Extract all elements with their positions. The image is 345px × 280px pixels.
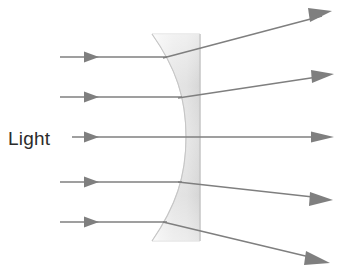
outgoing-ray-5 xyxy=(163,222,330,265)
optics-diagram: Light xyxy=(0,0,345,280)
outgoing-ray-2 xyxy=(178,70,334,98)
incoming-ray-5 xyxy=(60,217,167,228)
light-label: Light xyxy=(8,128,51,149)
incoming-ray-3 xyxy=(72,132,200,143)
outgoing-ray-3 xyxy=(200,132,334,143)
incoming-ray-2 xyxy=(60,92,182,103)
outgoing-ray-4 xyxy=(178,182,333,206)
incoming-ray-1 xyxy=(60,52,167,63)
incoming-ray-4 xyxy=(60,177,182,188)
ray-diagram-canvas: Light xyxy=(0,0,345,280)
